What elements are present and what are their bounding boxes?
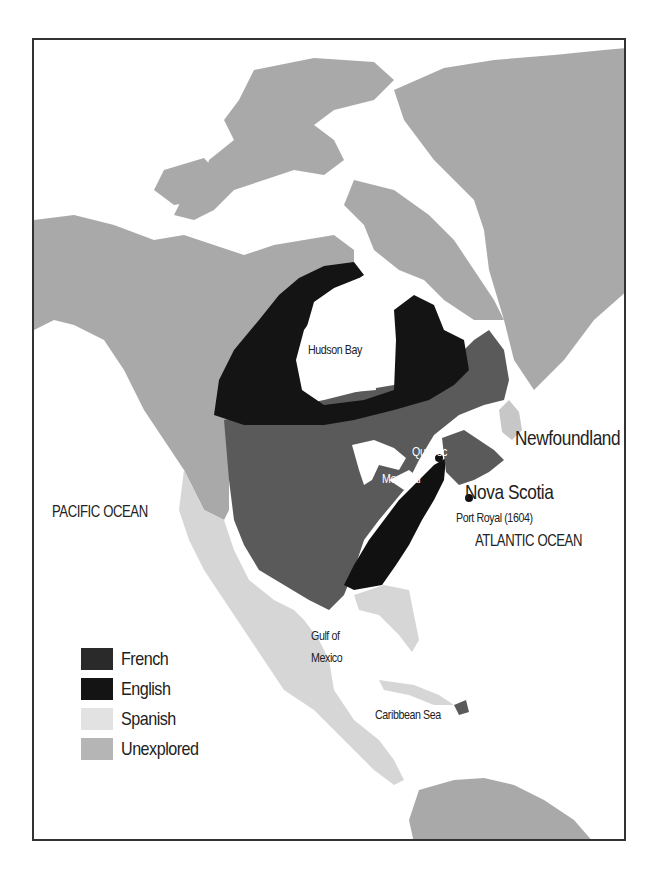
label-gulf-of-mexico-2: Mexico	[311, 650, 342, 665]
label-gulf-of-mexico-1: Gulf of	[311, 628, 340, 643]
legend-swatch-unexplored	[81, 738, 113, 760]
map-legend: French English Spanish Unexplored	[81, 648, 212, 768]
florida-spanish	[354, 585, 419, 652]
legend-item-spanish: Spanish	[81, 708, 212, 730]
south-america	[409, 778, 594, 841]
label-caribbean-sea: Caribbean Sea	[375, 707, 441, 722]
label-port-royal: Port Royal (1604)	[456, 510, 533, 525]
legend-label-unexplored: Unexplored	[121, 738, 198, 760]
legend-label-english: English	[121, 678, 170, 700]
cuba-island	[379, 680, 454, 705]
hispaniola-island	[454, 700, 469, 715]
legend-item-english: English	[81, 678, 212, 700]
map-frame: Hudson Bay Newfoundland Quebec Montreal …	[32, 38, 626, 841]
legend-item-french: French	[81, 648, 212, 670]
legend-item-unexplored: Unexplored	[81, 738, 212, 760]
legend-swatch-english	[81, 678, 113, 700]
label-pacific-ocean: PACIFIC OCEAN	[52, 503, 148, 521]
legend-swatch-spanish	[81, 708, 113, 730]
label-montreal: Montreal	[382, 471, 420, 486]
label-nova-scotia: Nova Scotia	[465, 480, 553, 504]
montreal-dot	[422, 484, 430, 492]
maritime-french	[442, 430, 504, 485]
label-hudson-bay: Hudson Bay	[308, 342, 362, 357]
label-atlantic-ocean: ATLANTIC OCEAN	[475, 532, 582, 550]
legend-label-spanish: Spanish	[121, 708, 176, 730]
legend-label-french: French	[121, 648, 168, 670]
label-newfoundland: Newfoundland	[515, 426, 620, 450]
legend-swatch-french	[81, 648, 113, 670]
label-quebec: Quebec	[412, 444, 447, 459]
